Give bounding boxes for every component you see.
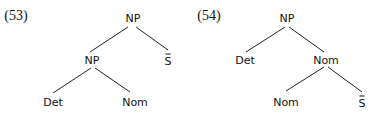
node-det: Det: [235, 55, 255, 66]
node-s-bar: S: [359, 98, 366, 109]
example-number: (53): [4, 8, 27, 24]
node-s-bar: S: [165, 56, 172, 67]
node-nom: Nom: [122, 97, 148, 108]
node-np-root: NP: [126, 13, 141, 24]
node-np-root: NP: [280, 13, 295, 24]
node-det: Det: [43, 97, 63, 108]
node-nom-lower: Nom: [273, 97, 299, 108]
node-nom: Nom: [313, 55, 339, 66]
example-number: (54): [197, 8, 220, 24]
node-np: NP: [85, 55, 100, 66]
